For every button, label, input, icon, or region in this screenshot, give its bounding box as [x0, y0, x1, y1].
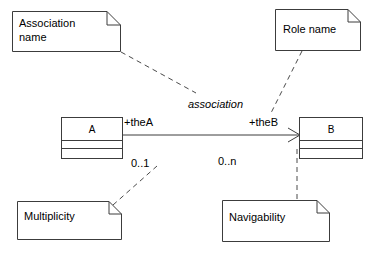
note-association-name-label-line2: name — [19, 31, 47, 43]
note-navigability[interactable]: Navigability — [223, 201, 330, 242]
target-role-label: +theB — [249, 116, 278, 128]
note-role-name-label: Role name — [283, 23, 336, 35]
leader-line-multiplicity — [113, 166, 157, 205]
leader-line-role-name — [271, 51, 302, 113]
note-association-name[interactable]: Association name — [13, 12, 121, 52]
class-box-a[interactable]: A — [62, 118, 123, 159]
note-multiplicity[interactable]: Multiplicity — [18, 202, 122, 240]
note-association-name-label-line1: Association — [19, 17, 75, 29]
association-connector-group[interactable] — [122, 128, 300, 142]
association-labels-group: +theA +theB association 0..1 0..n — [124, 98, 278, 169]
class-box-b[interactable]: B — [300, 118, 363, 159]
source-role-label: +theA — [124, 116, 154, 128]
target-multiplicity-label: 0..n — [218, 155, 236, 167]
leader-lines-group — [113, 51, 302, 205]
note-navigability-label: Navigability — [229, 211, 286, 223]
uml-diagram-canvas: A B Association name Role name Multiplic… — [0, 0, 387, 260]
association-name-label: association — [188, 98, 243, 110]
class-b-name: B — [328, 124, 335, 135]
diagram-svg: A B Association name Role name Multiplic… — [0, 0, 387, 260]
note-role-name[interactable]: Role name — [276, 10, 361, 51]
note-multiplicity-label: Multiplicity — [24, 210, 75, 222]
class-a-name: A — [89, 124, 96, 135]
leader-line-association-name — [121, 52, 196, 93]
source-multiplicity-label: 0..1 — [131, 157, 149, 169]
